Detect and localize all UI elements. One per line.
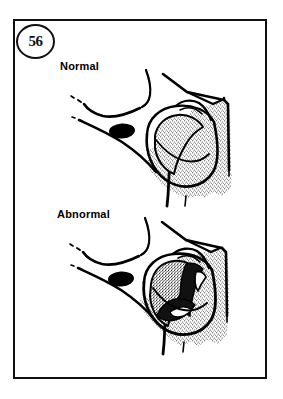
- figure-number-text: 56: [29, 34, 43, 49]
- panel-label-normal: Normal: [60, 60, 99, 72]
- panel-label-abnormal: Abnormal: [57, 208, 110, 220]
- panel-border-frame: [13, 19, 267, 379]
- figure-panel: 56 Normal Abnormal: [0, 0, 283, 399]
- figure-number-badge: 56: [16, 24, 55, 59]
